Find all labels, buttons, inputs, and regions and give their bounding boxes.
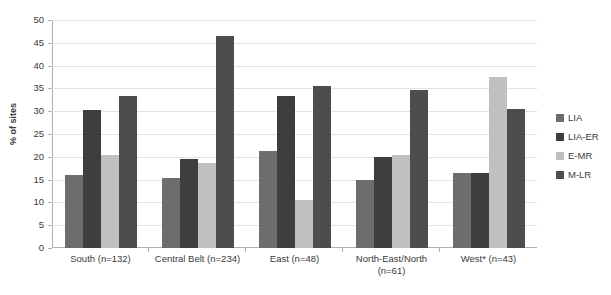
bar [313,86,331,248]
y-axis-tick-mark [48,157,52,158]
y-axis-tick-label: 25 [20,128,44,139]
x-axis-label-line: (n=61) [345,265,438,277]
y-axis-tick-label: 10 [20,196,44,207]
bar-group [246,20,343,248]
x-axis-label: East (n=48) [246,253,343,293]
x-axis-label-line: Central Belt (n=234) [151,253,244,265]
legend-swatch-icon [556,114,564,122]
bar-chart: % of sites 05101520253035404550 South (n… [0,0,611,295]
bar [277,96,295,248]
y-axis-tick-label: 0 [20,242,44,253]
bar [119,96,137,248]
legend-swatch-icon [556,171,564,179]
legend-item[interactable]: E-MR [556,150,599,161]
x-axis-labels: South (n=132)Central Belt (n=234)East (n… [52,253,537,293]
x-axis-label: Central Belt (n=234) [149,253,246,293]
y-axis-tick-mark [48,66,52,67]
bar [471,173,489,248]
legend-item[interactable]: LIA-ER [556,131,599,142]
legend-label: E-MR [568,150,592,161]
y-axis-tick-label: 5 [20,219,44,230]
bar [216,36,234,248]
bar [65,175,83,248]
y-axis-tick-mark [48,248,52,249]
bar-group [149,20,246,248]
bar [374,157,392,248]
x-axis-label: West* (n=43) [440,253,537,293]
y-axis-tick-label: 45 [20,37,44,48]
y-axis-tick-label: 50 [20,14,44,25]
bar [489,77,507,248]
bar-group [440,20,537,248]
x-axis-label: South (n=132) [52,253,149,293]
y-axis-tick-mark [48,111,52,112]
bar [83,110,101,248]
legend: LIALIA-ERE-MRM-LR [556,112,599,180]
y-axis-tick-label: 35 [20,82,44,93]
y-axis-tick-label: 40 [20,60,44,71]
bar [453,173,471,248]
y-axis-tick-mark [48,134,52,135]
y-axis-title-label: % of sites [8,103,18,145]
bar [507,109,525,248]
x-axis-label-line: South (n=132) [54,253,147,265]
bar [295,200,313,248]
legend-item[interactable]: M-LR [556,169,599,180]
y-axis-tick-mark [48,180,52,181]
bar [101,155,119,248]
plot-area [52,20,537,248]
bar [162,178,180,248]
x-axis-label-line: East (n=48) [248,253,341,265]
legend-swatch-icon [556,152,564,160]
y-axis-tick-label: 15 [20,174,44,185]
bar-group [343,20,440,248]
bar [259,151,277,248]
legend-label: LIA [568,112,582,123]
y-axis-tick-mark [48,225,52,226]
bar [392,155,410,248]
bar-group [52,20,149,248]
bar [356,180,374,248]
bar [180,159,198,248]
x-axis-label: North-East/North(n=61) [343,253,440,293]
legend-swatch-icon [556,133,564,141]
y-axis-tick-mark [48,43,52,44]
y-axis-tick-label: 20 [20,151,44,162]
legend-label: LIA-ER [568,131,599,142]
y-axis-tick-label: 30 [20,105,44,116]
legend-item[interactable]: LIA [556,112,599,123]
bar [198,163,216,248]
x-axis-label-line: North-East/North [345,253,438,265]
bar-groups [52,20,537,248]
legend-label: M-LR [568,169,591,180]
bar [410,90,428,248]
x-axis-label-line: West* (n=43) [442,253,535,265]
y-axis-tick-mark [48,88,52,89]
y-axis-tick-mark [48,20,52,21]
y-axis-tick-mark [48,202,52,203]
